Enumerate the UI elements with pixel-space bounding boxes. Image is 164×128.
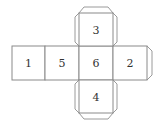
cube-net-diagram: 1 5 6 2 3 4 [0, 0, 164, 128]
face-2: 2 [113, 46, 147, 80]
face-3: 3 [79, 13, 113, 46]
face-label-1: 1 [25, 57, 32, 70]
tab-left-3 [75, 13, 79, 46]
tab-bottom-4 [79, 113, 113, 119]
face-label-6: 6 [93, 57, 100, 70]
face-1: 1 [12, 46, 45, 80]
face-label-3: 3 [93, 24, 100, 37]
face-label-5: 5 [59, 57, 66, 70]
face-5: 5 [45, 46, 79, 80]
face-label-2: 2 [127, 57, 134, 70]
tab-right-2 [147, 46, 152, 80]
face-4: 4 [79, 80, 113, 113]
face-6: 6 [79, 46, 113, 80]
tab-top-3 [79, 7, 113, 13]
tab-right-4 [113, 80, 117, 113]
tab-right-3 [113, 13, 117, 46]
face-label-4: 4 [93, 91, 100, 104]
tab-left-4 [75, 80, 79, 113]
